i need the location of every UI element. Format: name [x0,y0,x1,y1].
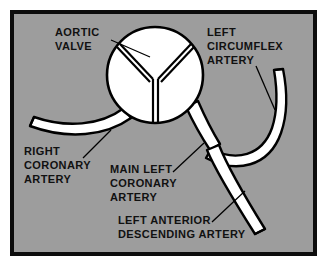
right-coronary-artery-label-line2: CORONARY [24,159,91,171]
right-coronary-artery-label-line1: RIGHT [24,145,60,157]
left-circumflex-artery-label-line2: CIRCUMFLEX [207,40,283,52]
left-circumflex-artery-label-line1: LEFT [207,26,236,38]
left-circumflex-artery-tip [274,69,283,70]
left-anterior-descending-artery-label-line1: LEFT ANTERIOR [118,214,211,226]
main-left-coronary-artery-label-line1: MAIN LEFT [110,163,172,175]
aortic-valve [107,27,203,123]
aortic-valve-label-line1: AORTIC [55,26,100,38]
left-circumflex-artery-label-line3: ARTERY [207,54,254,66]
aortic-valve-label-line2: VALVE [55,40,92,52]
main-left-coronary-artery-label-line3: ARTERY [110,191,157,203]
main-left-coronary-artery-label-line2: CORONARY [110,177,177,189]
right-coronary-artery-label-line3: ARTERY [24,173,71,185]
figure-root: AORTIC VALVE LEFT CIRCUMFLEX ARTERY RIGH… [0,0,330,269]
coronary-artery-diagram: AORTIC VALVE LEFT CIRCUMFLEX ARTERY RIGH… [0,0,330,269]
left-anterior-descending-artery-label-line2: DESCENDING ARTERY [118,228,246,240]
aortic-valve-circle [107,27,203,123]
